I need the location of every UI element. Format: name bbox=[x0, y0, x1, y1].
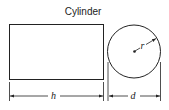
h-label: h bbox=[51, 90, 56, 101]
r-label: r bbox=[141, 40, 145, 51]
side-view-rectangle bbox=[10, 25, 104, 80]
radius-line-a bbox=[135, 48, 140, 51]
d-label: d bbox=[131, 90, 137, 101]
radius-line-b bbox=[146, 39, 156, 45]
cylinder-diagram: h r d bbox=[0, 0, 169, 110]
